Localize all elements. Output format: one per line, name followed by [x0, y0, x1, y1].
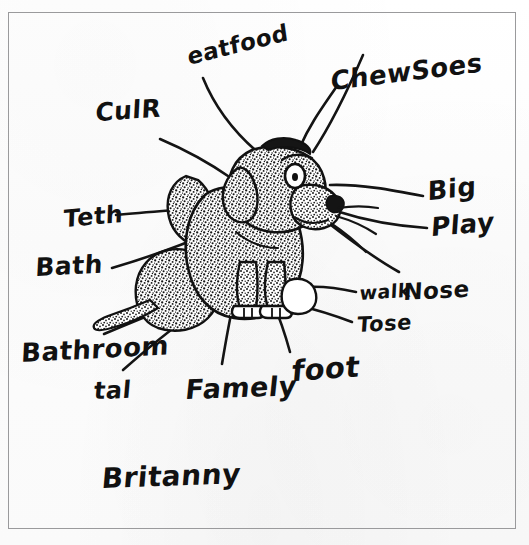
leader-line-big	[330, 185, 423, 196]
label-play: Play	[430, 208, 495, 240]
dog-nose	[326, 195, 344, 212]
label-nose: Nose	[403, 278, 470, 305]
label-color: CulR	[95, 95, 162, 125]
label-teeth: Teth	[63, 202, 124, 231]
label-family: Famely	[184, 372, 298, 403]
leader-line-nose	[327, 222, 399, 272]
signature: Britanny	[101, 460, 243, 493]
leader-line-eat-food	[203, 78, 261, 155]
dog-pupil	[292, 173, 298, 181]
label-foot: foot	[290, 352, 361, 386]
label-bath: Bath	[35, 251, 104, 280]
leader-line-color	[160, 139, 231, 178]
label-bathroom: Bathroom	[21, 332, 170, 366]
label-big: Big	[428, 173, 477, 204]
dog-drawing	[94, 138, 378, 331]
dog-hind-foot	[282, 279, 317, 314]
label-toes: Tose	[357, 312, 413, 336]
scanned-page: eatfood ChewSoes CulR Big Play Teth Bath…	[0, 0, 529, 545]
label-tail: tal	[93, 378, 132, 403]
dog-front-leg-left	[237, 262, 258, 308]
